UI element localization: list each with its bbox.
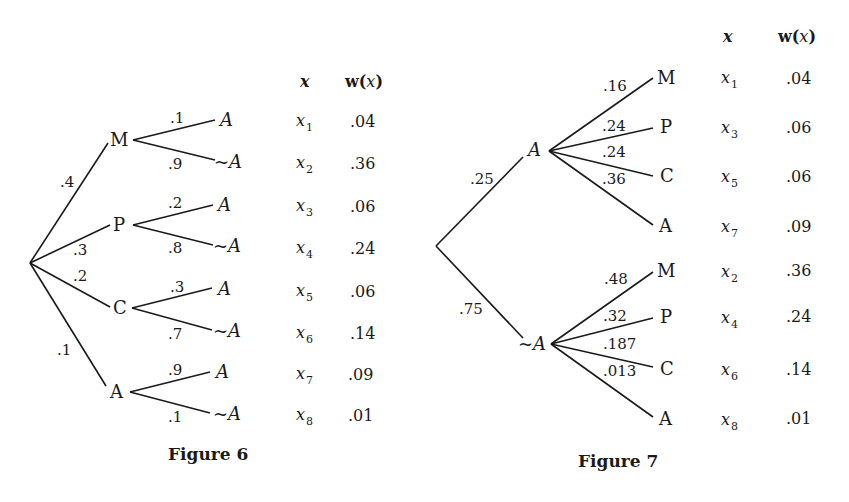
x-sub: 7 [306,374,313,387]
edge-root-A [30,263,106,386]
w-value-fig7-6: .14 [786,362,811,378]
w-value-6: .14 [350,326,375,342]
leaf-A-3: A [218,196,231,214]
leaf-A-7: A [216,363,229,381]
leaf-C-fig7-5: C [660,167,674,185]
prob-A-P-fig7: .24 [602,119,626,134]
x-var: x [721,262,730,281]
prob-C-notA: .7 [168,327,182,342]
prob-notA-M-fig7: .48 [604,272,628,287]
prob-root-notA-fig7: .75 [459,302,483,317]
x-sub: 3 [731,128,738,141]
prob-root-M: .4 [60,175,74,190]
x-value-fig7-1: x1 [721,70,738,86]
x-var: x [296,196,305,215]
node-C: C [113,299,127,317]
leaf-A-1: A [220,111,233,129]
prob-notA-C-fig7: .187 [603,337,636,352]
header-w-text: w( [778,27,799,46]
x-sub: 2 [731,272,738,285]
x-value-2: x2 [296,155,313,171]
x-sub: 4 [306,248,313,261]
leaf-notA-8: ~A [213,405,241,423]
edge-A-A-fig7 [549,151,653,225]
x-value-4: x4 [296,240,313,256]
prob-A-A: .9 [168,363,182,378]
column-header-x: x [300,74,310,90]
leaf-M-fig7-1: M [657,69,675,87]
column-header-w-fig7: w(x) [778,29,816,45]
prob-A-notA: .1 [168,410,182,425]
w-value-fig7-3: .06 [786,120,811,136]
x-var: x [721,167,730,186]
leaf-notA-2: ~A [214,153,242,171]
w-value-fig7-2: .36 [786,263,811,279]
prob-root-P: .3 [73,243,87,258]
leaf-M-fig7-2: M [657,262,675,280]
x-value-fig7-4: x4 [721,310,738,326]
w-value-8: .01 [348,408,373,424]
x-var: x [296,153,305,172]
x-sub: 2 [306,163,313,176]
x-sub: 1 [306,121,313,134]
x-value-fig7-6: x6 [721,362,738,378]
w-value-2: .36 [350,156,375,172]
leaf-P-fig7-3: P [660,118,672,136]
prob-M-notA: .9 [168,157,182,172]
leaf-A-fig7-7: A [659,217,672,235]
prob-A-M-fig7: .16 [603,79,627,94]
x-var: x [721,217,730,236]
x-sub: 5 [306,291,313,304]
header-w-close: ) [375,72,383,91]
prob-P-notA: .8 [168,241,182,256]
x-value-1: x1 [296,113,313,129]
figure-6-caption: Figure 6 [168,446,248,463]
w-value-1: .04 [350,114,375,130]
node-A: A [110,383,123,401]
x-sub: 8 [306,415,313,428]
leaf-C-fig7-6: C [660,360,674,378]
x-value-fig7-3: x3 [721,120,738,136]
prob-A-C-fig7: .24 [602,145,626,160]
x-value-fig7-7: x7 [721,219,738,235]
x-value-fig7-5: x5 [721,169,738,185]
x-sub: 5 [731,177,738,190]
leaf-notA-4: ~A [213,237,241,255]
x-var: x [721,68,730,87]
x-var: x [721,308,730,327]
column-header-w: w(x) [345,74,383,90]
x-sub: 6 [731,370,738,383]
figure-7-caption: Figure 7 [578,453,658,470]
edge-A-C-fig7 [549,151,653,176]
x-var: x [296,405,305,424]
x-var: x [296,364,305,383]
edge-notA-M-fig7 [551,272,653,344]
x-sub: 8 [731,420,738,433]
leaf-A-5: A [218,280,231,298]
x-var: x [721,118,730,137]
x-var: x [296,238,305,257]
prob-notA-A-fig7: .013 [603,364,636,379]
leaf-A-fig7-8: A [659,410,672,428]
prob-root-C: .2 [73,269,87,284]
prob-notA-P-fig7: .32 [603,309,627,324]
w-value-fig7-1: .04 [786,71,811,87]
x-var: x [296,323,305,342]
x-var: x [721,410,730,429]
w-value-fig7-8: .01 [786,411,811,427]
x-value-6: x6 [296,325,313,341]
node-P: P [113,216,125,234]
x-sub: 4 [731,318,738,331]
x-var: x [296,281,305,300]
w-value-3: .06 [350,199,375,215]
w-value-fig7-5: .06 [786,169,811,185]
x-sub: 3 [306,206,313,219]
x-value-3: x3 [296,198,313,214]
x-var: x [296,111,305,130]
prob-C-A: .3 [170,280,184,295]
node-M: M [110,131,128,149]
x-var: x [721,360,730,379]
x-sub: 6 [306,333,313,346]
w-value-4: .24 [350,241,375,257]
x-value-fig7-8: x8 [721,412,738,428]
